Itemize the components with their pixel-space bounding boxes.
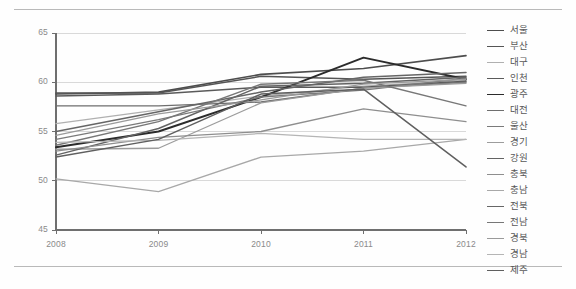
legend-swatch-icon <box>487 94 504 95</box>
x-tick-label: 2010 <box>239 239 283 249</box>
legend-swatch-icon <box>487 270 504 271</box>
legend-label: 인천 <box>510 73 528 83</box>
legend-swatch-icon <box>487 142 504 143</box>
legend-item-0[interactable]: 서울 <box>487 22 571 38</box>
y-tick-label: 60 <box>22 76 48 86</box>
legend-item-7[interactable]: 경기 <box>487 134 571 150</box>
legend-label: 강원 <box>510 153 528 163</box>
legend-swatch-icon <box>487 174 504 175</box>
legend-swatch-icon <box>487 110 504 111</box>
legend-label: 광주 <box>510 89 528 99</box>
legend-swatch-icon <box>487 254 504 255</box>
legend-item-1[interactable]: 부산 <box>487 38 571 54</box>
legend-label: 전북 <box>510 201 528 211</box>
series-lines <box>56 56 466 192</box>
legend-label: 울산 <box>510 121 528 131</box>
legend-swatch-icon <box>487 238 504 239</box>
legend: 서울부산대구인천광주대전울산경기강원충북충남전북전남경북경남제주 <box>487 22 571 278</box>
legend-label: 경기 <box>510 137 528 147</box>
y-tick-label: 50 <box>22 175 48 185</box>
legend-item-4[interactable]: 광주 <box>487 86 571 102</box>
y-tick-label: 45 <box>22 224 48 234</box>
legend-label: 충남 <box>510 185 528 195</box>
y-tick-label: 55 <box>22 126 48 136</box>
legend-swatch-icon <box>487 158 504 159</box>
legend-label: 충북 <box>510 169 528 179</box>
legend-item-12[interactable]: 전남 <box>487 214 571 230</box>
x-tick-label: 2009 <box>137 239 181 249</box>
bottom-divider-rule <box>14 266 562 267</box>
legend-label: 제주 <box>510 265 528 275</box>
legend-label: 경북 <box>510 233 528 243</box>
legend-label: 서울 <box>510 25 528 35</box>
legend-swatch-icon <box>487 30 504 31</box>
legend-swatch-icon <box>487 126 504 127</box>
legend-label: 대전 <box>510 105 528 115</box>
legend-swatch-icon <box>487 190 504 191</box>
legend-swatch-icon <box>487 46 504 47</box>
legend-label: 부산 <box>510 41 528 51</box>
legend-item-5[interactable]: 대전 <box>487 102 571 118</box>
plot-area: 6560555045 20082009201020112012 <box>30 20 470 245</box>
chart-figure: 6560555045 20082009201020112012 서울부산대구인천… <box>0 0 576 289</box>
legend-item-6[interactable]: 울산 <box>487 118 571 134</box>
x-tick-label: 2011 <box>342 239 386 249</box>
legend-label: 대구 <box>510 57 528 67</box>
top-divider-rule <box>14 9 562 10</box>
x-tick-label: 2008 <box>34 239 78 249</box>
line-chart-svg <box>30 20 470 245</box>
legend-swatch-icon <box>487 222 504 223</box>
legend-label: 경남 <box>510 249 528 259</box>
y-tick-label: 65 <box>22 27 48 37</box>
legend-swatch-icon <box>487 206 504 207</box>
legend-item-2[interactable]: 대구 <box>487 54 571 70</box>
legend-item-11[interactable]: 전북 <box>487 198 571 214</box>
legend-item-15[interactable]: 제주 <box>487 262 571 278</box>
legend-swatch-icon <box>487 78 504 79</box>
x-tick-label: 2012 <box>444 239 488 249</box>
legend-label: 전남 <box>510 217 528 227</box>
legend-swatch-icon <box>487 62 504 63</box>
series-line <box>56 80 466 145</box>
legend-item-3[interactable]: 인천 <box>487 70 571 86</box>
legend-item-14[interactable]: 경남 <box>487 246 571 262</box>
legend-item-9[interactable]: 충북 <box>487 166 571 182</box>
legend-item-10[interactable]: 충남 <box>487 182 571 198</box>
legend-item-8[interactable]: 강원 <box>487 150 571 166</box>
legend-item-13[interactable]: 경북 <box>487 230 571 246</box>
